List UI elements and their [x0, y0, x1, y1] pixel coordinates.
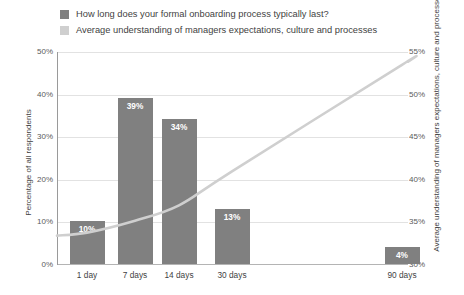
legend-label-bars: How long does your formal onboarding pro… — [76, 9, 329, 20]
right-tick-4: 35% — [409, 217, 425, 227]
plot-area: 10%39%34%13%4% — [57, 52, 408, 265]
chart-legend: How long does your formal onboarding pro… — [60, 7, 440, 39]
left-tick-0: 50% — [37, 47, 53, 57]
right-tick-1: 50% — [409, 90, 425, 100]
right-tick-2: 45% — [409, 132, 425, 142]
left-tick-1: 40% — [37, 90, 53, 100]
left-axis-ticks: 50% 40% 30% 20% 10% 0% — [24, 0, 53, 295]
category-label-90-days: 90 days — [387, 270, 416, 280]
left-tick-4: 10% — [37, 217, 53, 227]
line-series-path — [57, 56, 417, 236]
category-label-14-days: 14 days — [164, 270, 193, 280]
category-label-30-days: 30 days — [217, 270, 246, 280]
chart-container: How long does your formal onboarding pro… — [0, 0, 464, 295]
legend-item-line: Average understanding of managers expect… — [60, 23, 440, 37]
legend-label-line: Average understanding of managers expect… — [76, 25, 377, 36]
left-tick-2: 30% — [37, 132, 53, 142]
legend-swatch-line-icon — [60, 26, 69, 35]
category-label-1-day: 1 day — [77, 270, 97, 280]
category-label-7-days: 7 days — [123, 270, 147, 280]
right-tick-3: 40% — [409, 175, 425, 185]
legend-swatch-bars-icon — [60, 10, 69, 19]
left-tick-3: 20% — [37, 175, 53, 185]
legend-item-bars: How long does your formal onboarding pro… — [60, 7, 440, 21]
left-tick-5: 0% — [41, 260, 53, 270]
line-series-svg — [57, 52, 408, 265]
